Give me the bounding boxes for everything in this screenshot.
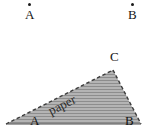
physics-figure: A B paper C A B xyxy=(0,0,157,135)
vertex-label-c: C xyxy=(110,50,119,63)
vertex-label-a: A xyxy=(30,114,39,127)
vertex-label-b: B xyxy=(125,114,134,127)
